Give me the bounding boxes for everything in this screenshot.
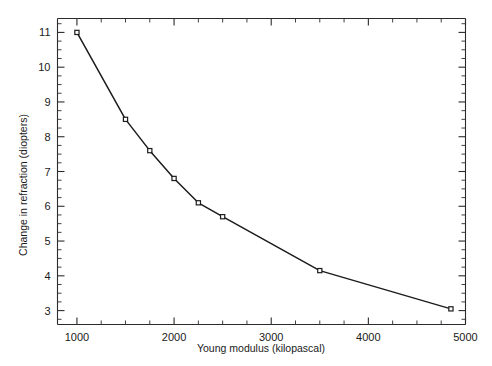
x-tick-label: 3000 [259,331,283,343]
y-tick-label: 8 [44,131,50,143]
y-tick-label: 4 [44,270,50,282]
data-point-marker [449,307,453,311]
y-tick-label: 10 [38,61,50,73]
chart-figure: 10002000300040005000 34567891011 Young m… [0,0,492,366]
data-point-marker [75,30,79,34]
data-point-marker [148,149,152,153]
y-tick-label: 5 [44,235,50,247]
data-point-marker [172,176,176,180]
data-point-marker [221,215,225,219]
y-tick-label: 3 [44,305,50,317]
y-tick-label: 11 [39,26,50,38]
x-tick-label: 1000 [65,331,89,343]
y-tick-label: 7 [44,166,50,178]
x-tick-label: 4000 [356,331,380,343]
x-axis-title: Young modulus (kilopascal) [197,342,325,354]
y-tick-label: 6 [44,200,50,212]
data-point-marker [318,269,322,273]
data-point-marker [196,201,200,205]
chart-background [0,0,492,366]
line-chart: 10002000300040005000 34567891011 Young m… [0,0,492,366]
y-tick-label: 9 [44,96,50,108]
x-tick-label: 2000 [162,331,186,343]
x-tick-label: 5000 [453,331,477,343]
data-point-marker [123,117,127,121]
y-axis-title: Change in refraction (diopters) [17,114,29,256]
